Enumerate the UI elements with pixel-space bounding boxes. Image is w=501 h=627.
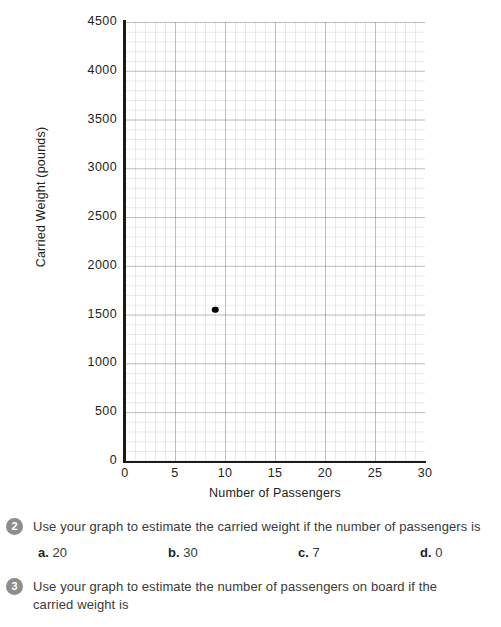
y-tick-label: 0 [55,453,117,467]
y-tick-label: 3000 [55,160,117,174]
x-axis-line [123,461,426,464]
answer-option-a[interactable]: a. 20 [38,545,67,560]
option-value: 7 [309,545,320,560]
y-tick-label: 3500 [55,112,117,126]
scatter-chart: 050010001500200025003000350040004500 051… [0,0,501,505]
option-letter: a. [38,545,49,560]
question-number-badge: 3 [6,578,23,595]
question-number-badge: 2 [6,518,23,535]
y-tick-label: 4500 [55,14,117,28]
option-value: 0 [432,545,443,560]
y-axis-title: Carried Weight (pounds) [34,112,48,282]
question-text: Use your graph to estimate the number of… [33,578,443,614]
x-tick-label: 30 [405,466,445,480]
questions-section: 2Use your graph to estimate the carried … [0,505,501,627]
x-axis-title: Number of Passengers [125,486,425,500]
option-value: 20 [49,545,67,560]
x-tick-label: 25 [355,466,395,480]
x-tick-label: 15 [255,466,295,480]
option-letter: c. [298,545,309,560]
y-tick-label: 1500 [55,307,117,321]
option-letter: d. [420,545,432,560]
x-tick-label: 20 [305,466,345,480]
y-axis-line [123,20,126,463]
answer-option-d[interactable]: d. 0 [420,545,442,560]
option-letter: b. [168,545,180,560]
y-tick-label: 4000 [55,63,117,77]
y-tick-label: 500 [55,404,117,418]
x-tick-label: 5 [155,466,195,480]
answer-option-b[interactable]: b. 30 [168,545,198,560]
x-tick-label: 0 [105,466,145,480]
x-tick-label: 10 [205,466,245,480]
y-tick-label: 2000 [55,258,117,272]
plot-grid-area [125,22,425,461]
data-point [212,307,219,314]
y-tick-label: 2500 [55,209,117,223]
answer-option-c[interactable]: c. 7 [298,545,320,560]
question-text: Use your graph to estimate the carried w… [33,518,501,536]
y-tick-label: 1000 [55,355,117,369]
option-value: 30 [180,545,198,560]
